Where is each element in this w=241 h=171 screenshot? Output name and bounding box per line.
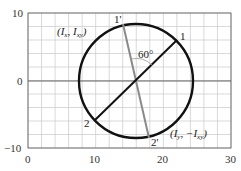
annotation-iy-neg-ixy: (Iy, −Ixy) [170, 127, 207, 141]
y-tick-0: 0 [17, 75, 23, 87]
point-2prime-label: 2' [151, 136, 159, 148]
angle-label: 60° [138, 48, 153, 60]
point-1prime-label: 1' [114, 13, 122, 25]
point-1-label: 1 [180, 30, 186, 42]
annotation-ix-ixy: (Ix, Ixy) [57, 25, 87, 39]
x-tick-0: 0 [25, 153, 31, 165]
x-tick-20: 20 [157, 153, 169, 165]
x-tick-30: 30 [225, 153, 237, 165]
x-tick-10: 10 [89, 153, 101, 165]
point-2-label: 2 [84, 117, 90, 129]
y-tick-10: 10 [12, 7, 24, 19]
y-tick-neg10: −10 [4, 142, 22, 154]
mohr-circle-diagram: 10 0 −10 0 10 20 30 60° 1 2 1' 2' (Ix, I… [0, 0, 241, 171]
